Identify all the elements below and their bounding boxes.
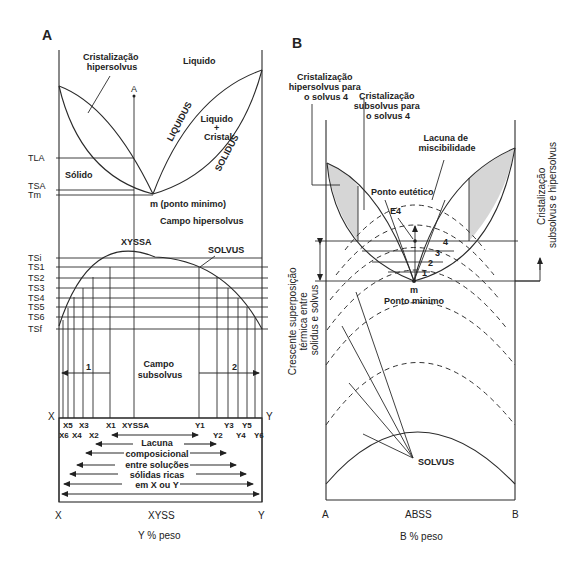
svg-text:TS1: TS1 bbox=[28, 262, 45, 272]
right-rotated-label: Cristalização subsolvus e hipersolvus bbox=[536, 142, 558, 248]
svg-text:3: 3 bbox=[435, 248, 440, 258]
hyper-shaded-right bbox=[469, 148, 515, 241]
hyper4-label: Cristalização hipersolvus para o solvus … bbox=[289, 72, 364, 102]
svg-text:TS2: TS2 bbox=[28, 273, 45, 283]
svg-text:TS6: TS6 bbox=[28, 312, 45, 322]
svg-text:composicional: composicional bbox=[125, 449, 188, 459]
hyper-cryst-label: Cristalização hipersolvus bbox=[83, 52, 141, 72]
gap-text: Lacuna composicional entre soluções sóli… bbox=[124, 437, 190, 490]
svg-text:em X ou Y: em X ou Y bbox=[135, 480, 178, 490]
bottom-abss-label: ABSS bbox=[405, 509, 432, 520]
svg-text:entre soluções: entre soluções bbox=[125, 460, 189, 470]
panel-b-label: B bbox=[292, 35, 302, 51]
panel-a-label: A bbox=[42, 27, 52, 43]
svg-text:X2: X2 bbox=[89, 431, 99, 440]
temp-tla: TLA bbox=[28, 153, 45, 163]
svg-text:Y6: Y6 bbox=[254, 431, 264, 440]
min-point-label: m (ponto minimo) bbox=[150, 199, 226, 209]
min-point-b-label: Ponto minimo bbox=[384, 296, 444, 306]
svg-text:Y3: Y3 bbox=[224, 421, 234, 430]
svg-text:TSf: TSf bbox=[28, 324, 43, 334]
svg-text:X1: X1 bbox=[106, 421, 116, 430]
bottom-xyss-label: XYSS bbox=[148, 510, 175, 521]
bottom-y-label: Y bbox=[258, 510, 265, 521]
e4-pointer bbox=[398, 218, 413, 239]
svg-text:XYSSA: XYSSA bbox=[122, 421, 149, 430]
sub4-pointer bbox=[360, 99, 364, 210]
m-label: m bbox=[410, 285, 418, 295]
svg-text:Y1: Y1 bbox=[195, 421, 205, 430]
svg-text:Y5: Y5 bbox=[242, 421, 252, 430]
miscibility-pointer bbox=[432, 160, 444, 200]
hyper-field-label: Campo hipersolvus bbox=[160, 216, 244, 226]
axis-x-end: X bbox=[48, 411, 55, 422]
right-connector bbox=[515, 262, 540, 281]
svg-text:X3: X3 bbox=[79, 421, 89, 430]
panel-b: B 4 3 2 1 bbox=[287, 35, 558, 542]
temp-tm: Tm bbox=[28, 190, 41, 200]
sub-field-label: Campo subsolvus bbox=[138, 359, 183, 380]
svg-text:Lacuna: Lacuna bbox=[141, 438, 174, 448]
solvus-a-label: SOLVUS bbox=[208, 245, 244, 255]
solvus-b-label: SOLVUS bbox=[418, 457, 454, 467]
svg-text:4: 4 bbox=[443, 237, 448, 247]
xyssa-top-label: XYSSA bbox=[121, 237, 152, 247]
hyper-shaded-left bbox=[327, 163, 358, 241]
phase-diagram-figure: A A Cristalização hipersolvus Liquido Li… bbox=[0, 0, 576, 576]
panel-a: A A Cristalização hipersolvus Liquido Li… bbox=[28, 27, 273, 541]
hyper-cryst-pointer bbox=[88, 76, 110, 113]
e4-label: E4 bbox=[390, 206, 401, 216]
svg-text:X5: X5 bbox=[63, 421, 73, 430]
arrow-2-label: 2 bbox=[232, 362, 237, 372]
svg-text:1: 1 bbox=[422, 268, 427, 278]
svg-text:TS5: TS5 bbox=[28, 302, 45, 312]
composition-row-1: X5 X3 X1 XYSSA Y1 Y3 Y5 bbox=[63, 421, 252, 430]
arrow-1-label: 1 bbox=[86, 362, 91, 372]
eutectic-label: Ponto eutético bbox=[371, 187, 434, 197]
svg-text:Y2: Y2 bbox=[213, 431, 223, 440]
liquid-label: Liquido bbox=[183, 56, 216, 66]
svg-text:X4: X4 bbox=[72, 431, 82, 440]
composition-verticals bbox=[63, 267, 255, 418]
x-axis-label-a: Y % peso bbox=[138, 530, 181, 541]
svg-text:Y4: Y4 bbox=[236, 431, 246, 440]
liquidus-label: LIQUIDUS bbox=[165, 100, 194, 143]
svg-text:TS3: TS3 bbox=[28, 283, 45, 293]
bottom-b-label: B bbox=[512, 509, 519, 520]
svg-text:sólidas ricas: sólidas ricas bbox=[130, 470, 185, 480]
point-a-label: A bbox=[131, 84, 137, 94]
solid-label: Sólido bbox=[65, 170, 93, 180]
x-axis-label-b: B % peso bbox=[400, 531, 443, 542]
miscibility-gap-label: Lacuna de miscibilidade bbox=[418, 133, 475, 153]
bottom-x-label: X bbox=[55, 510, 62, 521]
axis-y-end: Y bbox=[266, 411, 273, 422]
svg-text:X6: X6 bbox=[59, 431, 69, 440]
solvus-temp-labels: TSi TS1 TS2 TS3 TS4 TS5 TS6 TSf bbox=[28, 253, 45, 334]
bottom-a-label: A bbox=[322, 509, 329, 520]
svg-text:2: 2 bbox=[428, 258, 433, 268]
